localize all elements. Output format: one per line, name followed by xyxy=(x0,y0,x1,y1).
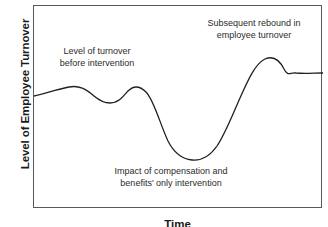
y-axis-label: Level of Employee Turnover xyxy=(19,4,31,184)
annotation-intervention-impact: Impact of compensation and benefits' onl… xyxy=(78,166,264,189)
x-axis-label: Time xyxy=(33,218,322,227)
turnover-line-chart: Level of Employee Turnover Level of turn… xyxy=(0,0,328,227)
annotation-before-intervention: Level of turnover before intervention xyxy=(36,46,158,69)
turnover-curve-path xyxy=(34,58,323,160)
annotation-subsequent-rebound: Subsequent rebound in employee turnover xyxy=(180,18,328,41)
